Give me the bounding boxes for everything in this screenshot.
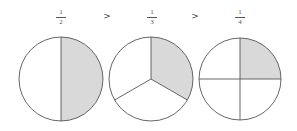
- shaded-third: [151, 37, 193, 100]
- circle-quarter: [199, 38, 281, 120]
- circle-third: [109, 37, 193, 121]
- fraction-circles: [0, 0, 297, 131]
- shaded-half: [61, 37, 103, 121]
- shaded-quarter: [240, 38, 281, 79]
- circle-half: [19, 37, 103, 121]
